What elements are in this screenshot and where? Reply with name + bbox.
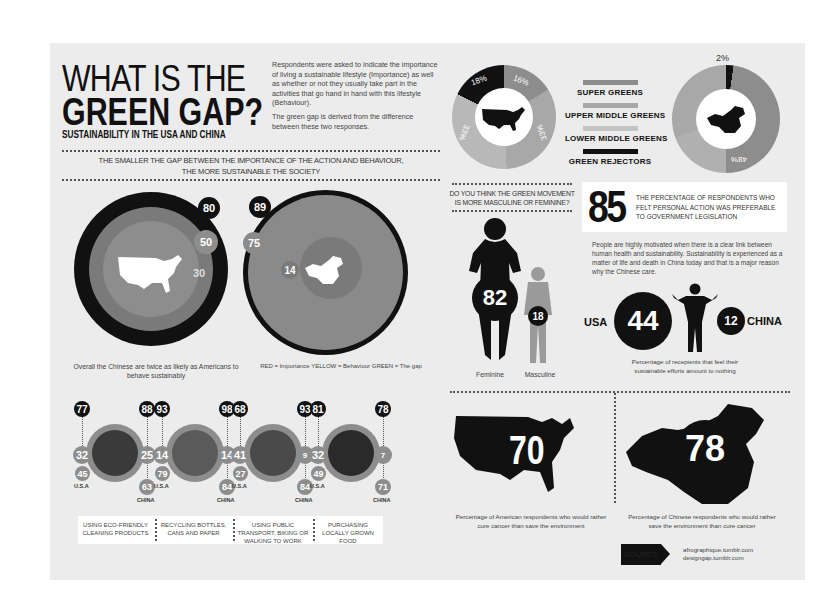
usa-behaviour-value: 50 (194, 230, 218, 254)
divider (614, 393, 616, 503)
usa-map-icon (481, 106, 527, 132)
usa-importance-value: 68 (232, 401, 248, 417)
usa-importance-value: 80 (198, 197, 220, 219)
legend-swatch-lower (583, 126, 638, 131)
source-arrow-icon (661, 544, 670, 564)
legend-super-greens: SUPER GREENS (565, 88, 655, 97)
china-rejectors-pct: 2% (716, 53, 729, 63)
china-label: CHINA (373, 497, 390, 503)
activity-photo (328, 430, 374, 476)
title-line-2: GREEN GAP? (62, 95, 263, 129)
usa-behaviour-value: 49 (311, 466, 326, 481)
usa-label: U.S.A (154, 483, 169, 489)
category-label: RECYCLING BOTTLES, CANS AND PAPER (156, 521, 231, 537)
china-label: CHINA (217, 497, 234, 503)
divider (62, 150, 440, 152)
china-gap-value: 14 (281, 261, 299, 279)
category-label: USING PUBLIC TRANSPORT, BIKING OR WALKIN… (234, 521, 312, 545)
usa-gap-value: 32 (309, 446, 327, 464)
cancer-usa-caption: Percentage of American respondents who w… (452, 512, 610, 530)
caption-left: Overall the Chinese are twice as likely … (66, 362, 246, 380)
intro-paragraph-1: Respondents were asked to indicate the i… (272, 60, 442, 108)
usa-label: U.S.A (74, 483, 89, 489)
legend-lower-middle: LOWER MIDDLE GREENS (565, 134, 655, 143)
activity-photo (92, 430, 138, 476)
nothing-china-label: CHINA (747, 315, 782, 327)
feminine-label: Feminine (470, 370, 510, 379)
usa-behaviour-value: 45 (75, 466, 90, 481)
banner-line-1: THE SMALLER THE GAP BETWEEN THE IMPORTAN… (62, 155, 440, 166)
usa-label: U.S.A (232, 483, 247, 489)
source-badge: SOURCE (621, 544, 661, 565)
china-behaviour-value: 75 (243, 232, 265, 254)
china-label: CHINA (295, 497, 312, 503)
china-gap-value: 7 (374, 446, 392, 464)
intro-paragraph-2: The green gap is derived from the differ… (272, 112, 442, 131)
masculine-value: 18 (528, 306, 548, 326)
legend-upper-middle: UPPER MIDDLE GREENS (565, 111, 655, 120)
china-super-pct: 48% (731, 155, 747, 164)
nothing-usa-value: 44 (614, 292, 672, 350)
personal-action-text: THE PERCENTAGE OF RESPONDENTS WHO FELT P… (636, 193, 781, 222)
cancer-china-caption: Percentage of Chinese respondents who wo… (622, 512, 782, 530)
segment-legend: SUPER GREENS UPPER MIDDLE GREENS LOWER M… (565, 80, 655, 166)
china-label: CHINA (137, 497, 154, 503)
category-label: PURCHASING LOCALLY GROWN FOOD (314, 521, 382, 545)
activity-photo (250, 430, 296, 476)
usa-gap-value: 14 (153, 446, 171, 464)
source-link-1[interactable]: afrographique.tumblr.com (683, 546, 753, 554)
source-links: afrographique.tumblr.com designgap.tumbl… (683, 546, 753, 562)
divider (452, 183, 572, 185)
china-behaviour-value: 71 (375, 479, 391, 495)
china-importance-value: 89 (249, 196, 271, 218)
cancer-usa-value: 70 (509, 428, 545, 473)
usa-importance-value: 93 (154, 401, 170, 417)
china-importance-value: 78 (375, 401, 391, 417)
banner-line-2: THE MORE SUSTAINABLE THE SOCIETY (62, 166, 440, 177)
china-behaviour-value: 63 (139, 479, 155, 495)
usa-behaviour-value: 79 (155, 466, 170, 481)
usa-importance-value: 77 (74, 401, 90, 417)
china-motivation-text: People are highly motivated when there i… (592, 240, 787, 276)
china-importance-value: 88 (139, 401, 155, 417)
subtitle: SUSTAINABILITY IN THE USA AND CHINA (62, 129, 226, 140)
china-map-icon (303, 254, 345, 286)
personal-action-value: 85 (588, 182, 625, 232)
usa-map-icon (116, 253, 186, 295)
usa-label: U.S.A (310, 483, 325, 489)
china-map-icon (705, 105, 747, 135)
usa-behaviour-value: 27 (233, 466, 248, 481)
source-link-2[interactable]: designgap.tumblr.com (683, 554, 753, 562)
gender-question: DO YOU THINK THE GREEN MOVEMENT IS MORE … (448, 189, 576, 207)
masculine-label: Masculine (520, 370, 560, 379)
usa-gap-value: 32 (73, 446, 91, 464)
divider (62, 179, 440, 181)
banner: THE SMALLER THE GAP BETWEEN THE IMPORTAN… (62, 155, 440, 177)
nothing-china-value: 12 (717, 307, 745, 335)
usa-gap-value: 41 (231, 446, 249, 464)
category-label: USING ECO-FRIENDLY CLEANING PRODUCTS (78, 521, 153, 537)
feminine-value: 82 (472, 275, 518, 321)
usa-gap-value: 30 (188, 262, 210, 284)
legend-swatch-upper (583, 103, 638, 108)
legend-swatch-super (583, 80, 638, 85)
legend-green-rejectors: GREEN REJECTORS (565, 157, 655, 166)
shrugging-man-icon (670, 282, 720, 354)
activity-photo (172, 430, 218, 476)
divider (450, 391, 790, 393)
nothing-caption: Percentage of recepients that feel their… (625, 357, 745, 375)
usa-importance-value: 81 (310, 401, 326, 417)
legend-swatch-rejectors (583, 149, 638, 154)
caption-right: RED = Importance YELLOW = Behaviour GREE… (256, 362, 426, 371)
divider (452, 210, 572, 212)
cancer-china-value: 78 (676, 420, 734, 478)
nothing-usa-label: USA (584, 316, 607, 328)
